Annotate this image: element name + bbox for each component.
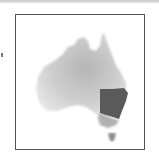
tasmania-region [108, 133, 116, 141]
australia-map [16, 15, 144, 149]
top-bar [0, 0, 159, 3]
nsw-region[interactable] [100, 88, 128, 119]
side-mark [1, 53, 3, 57]
map-frame [15, 14, 145, 150]
